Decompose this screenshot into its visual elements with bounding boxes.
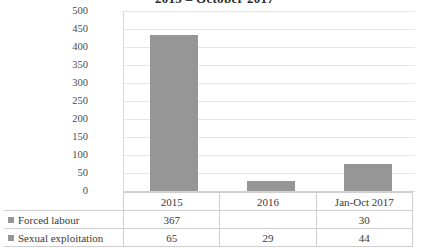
- bar-2016: [247, 181, 295, 191]
- bar-jan-oct-2017: [344, 164, 392, 191]
- gridline-500: [123, 11, 415, 12]
- y-tick-450: 450: [48, 24, 88, 34]
- legend-label-forced-labour: Forced labour: [18, 214, 79, 226]
- cell-forced-labour-jan-oct-2017: 30: [316, 211, 412, 229]
- y-tick-200: 200: [48, 114, 88, 124]
- cell-sexual-exploitation-2015: 65: [124, 229, 220, 247]
- y-tick-50: 50: [48, 168, 88, 178]
- y-tick-300: 300: [48, 78, 88, 88]
- table-row: Sexual exploitation 65 29 44: [4, 229, 413, 247]
- chart-plot-area: 500 450 400 350 300 250 200 150 100 50 0: [0, 6, 429, 192]
- table-row: Forced labour 367 30: [4, 211, 413, 229]
- gridline-450: [123, 29, 415, 30]
- table-header-2015: 2015: [124, 193, 220, 211]
- table-header-jan-oct-2017: Jan-Oct 2017: [316, 193, 412, 211]
- table-header-2016: 2016: [220, 193, 316, 211]
- cell-sexual-exploitation-jan-oct-2017: 44: [316, 229, 412, 247]
- chart-title: 2015 – October 2017: [0, 0, 429, 5]
- chart-data-table: 2015 2016 Jan-Oct 2017 Forced labour 367…: [4, 192, 413, 247]
- y-axis-line: [123, 11, 124, 192]
- y-tick-150: 150: [48, 132, 88, 142]
- y-tick-500: 500: [48, 6, 88, 16]
- cell-sexual-exploitation-2016: 29: [220, 229, 316, 247]
- legend-label-sexual-exploitation: Sexual exploitation: [18, 232, 103, 244]
- legend-item-sexual-exploitation[interactable]: Sexual exploitation: [4, 229, 124, 247]
- table-header-row: 2015 2016 Jan-Oct 2017: [4, 193, 413, 211]
- y-tick-250: 250: [48, 96, 88, 106]
- table-corner-cell: [4, 193, 124, 211]
- y-tick-100: 100: [48, 150, 88, 160]
- cell-forced-labour-2016: [220, 211, 316, 229]
- legend-swatch-icon: [8, 235, 14, 241]
- y-tick-350: 350: [48, 60, 88, 70]
- legend-swatch-icon: [8, 217, 14, 223]
- y-tick-400: 400: [48, 42, 88, 52]
- legend-item-forced-labour[interactable]: Forced labour: [4, 211, 124, 229]
- cell-forced-labour-2015: 367: [124, 211, 220, 229]
- bar-2015: [150, 35, 198, 191]
